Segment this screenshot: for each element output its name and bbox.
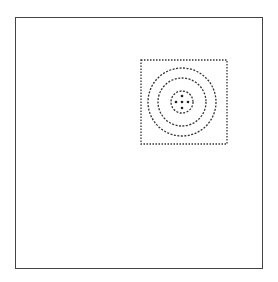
center-dots xyxy=(175,95,190,110)
dot-center xyxy=(181,101,184,104)
inner-dotted-square xyxy=(141,60,227,144)
dot-bottom xyxy=(181,107,184,110)
dot-left xyxy=(175,101,178,104)
dot-top xyxy=(181,95,184,98)
diagram-canvas xyxy=(0,0,278,282)
dot-right xyxy=(187,101,190,104)
